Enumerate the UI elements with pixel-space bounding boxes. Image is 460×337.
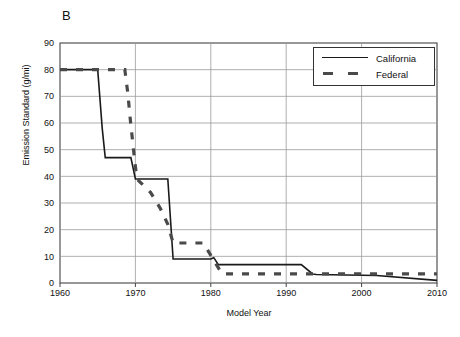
legend-swatch-dashed-line-icon [320, 68, 370, 80]
legend-entry-federal: Federal [320, 66, 408, 82]
legend-label-california: California [376, 53, 416, 64]
emission-standard-chart-figure: B Emission Standard (g/mi) Model Year 90… [0, 0, 460, 337]
legend-swatch-solid-line-icon [320, 52, 370, 64]
legend-label-federal: Federal [376, 69, 408, 80]
legend-entry-california: California [320, 50, 416, 66]
chart-legend: California Federal [313, 47, 435, 86]
